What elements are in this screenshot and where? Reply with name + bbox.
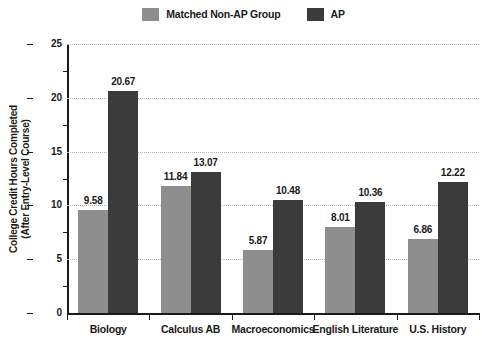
chart-legend: Matched Non-AP Group AP bbox=[0, 8, 487, 21]
bar bbox=[243, 250, 273, 313]
x-tick bbox=[479, 313, 480, 320]
legend-label-ap: AP bbox=[331, 9, 345, 20]
legend-entry-ap: AP bbox=[307, 8, 345, 21]
x-axis-line bbox=[67, 313, 479, 315]
bar bbox=[78, 210, 108, 313]
legend-entry-matched-non-ap-group: Matched Non-AP Group bbox=[142, 8, 280, 21]
y-tick-major-20 bbox=[27, 98, 33, 99]
y-axis-title: College Credit Hours Completed (After En… bbox=[6, 44, 34, 313]
y-tick-major-25 bbox=[27, 44, 33, 45]
y-tick-minor-2.5 bbox=[63, 286, 67, 287]
bar bbox=[108, 91, 138, 313]
y-axis-ticks: 0510152025 bbox=[40, 44, 62, 313]
x-category-label: Calculus AB bbox=[161, 323, 220, 335]
y-tick-major-10 bbox=[27, 205, 33, 206]
x-tick bbox=[314, 313, 315, 320]
bar-value-label: 10.48 bbox=[276, 186, 300, 196]
x-category-label: Biology bbox=[90, 323, 127, 335]
bar bbox=[355, 202, 385, 313]
bar-value-label: 9.58 bbox=[84, 196, 103, 206]
y-tick-label-25: 25 bbox=[40, 39, 62, 49]
legend-swatch-matched-non-ap-group bbox=[142, 8, 159, 21]
bar bbox=[161, 186, 191, 313]
bar-value-label: 13.07 bbox=[194, 158, 218, 168]
y-tick-minor-12.5 bbox=[63, 179, 67, 180]
bar-value-label: 12.22 bbox=[441, 168, 465, 178]
y-tick-label-10: 10 bbox=[40, 200, 62, 210]
bars-layer: 9.5820.6711.8413.075.8710.488.0110.366.8… bbox=[67, 44, 479, 313]
bar-value-label: 8.01 bbox=[331, 213, 350, 223]
y-tick-major-5 bbox=[27, 259, 33, 260]
bar bbox=[325, 227, 355, 313]
y-axis-title-line-1: College Credit Hours Completed bbox=[8, 105, 19, 253]
x-category-label: U.S. History bbox=[409, 323, 466, 335]
bar bbox=[438, 182, 468, 313]
legend-label-matched-non-ap-group: Matched Non-AP Group bbox=[166, 9, 280, 20]
y-axis-title-line-2: (After Entry-Level Course) bbox=[20, 119, 31, 238]
y-tick-label-0: 0 bbox=[40, 308, 62, 318]
x-tick bbox=[232, 313, 233, 320]
y-tick-major-0 bbox=[27, 313, 33, 314]
y-tick-major-15 bbox=[27, 152, 33, 153]
y-tick-minor-7.5 bbox=[63, 232, 67, 233]
bar-chart-figure: Matched Non-AP Group AP College Credit H… bbox=[0, 0, 487, 359]
bar bbox=[273, 200, 303, 313]
bar-value-label: 5.87 bbox=[249, 236, 268, 246]
y-tick-minor-22.5 bbox=[63, 71, 67, 72]
y-tick-label-15: 15 bbox=[40, 147, 62, 157]
x-category-label: Macroeconomics bbox=[232, 323, 315, 335]
bar-value-label: 10.36 bbox=[358, 188, 382, 198]
bar-value-label: 6.86 bbox=[413, 225, 432, 235]
y-tick-label-20: 20 bbox=[40, 93, 62, 103]
x-category-label: English Literature bbox=[313, 323, 399, 335]
x-tick bbox=[67, 313, 68, 320]
y-tick-label-5: 5 bbox=[40, 254, 62, 264]
x-tick bbox=[397, 313, 398, 320]
y-axis-title-text: College Credit Hours Completed (After En… bbox=[8, 105, 32, 253]
x-tick bbox=[149, 313, 150, 320]
y-tick-minor-17.5 bbox=[63, 125, 67, 126]
plot-area: 9.5820.6711.8413.075.8710.488.0110.366.8… bbox=[67, 44, 479, 313]
bar bbox=[408, 239, 438, 313]
bar-value-label: 20.67 bbox=[111, 77, 135, 87]
legend-swatch-ap bbox=[307, 8, 324, 21]
bar-value-label: 11.84 bbox=[164, 172, 187, 182]
bar bbox=[191, 172, 221, 313]
